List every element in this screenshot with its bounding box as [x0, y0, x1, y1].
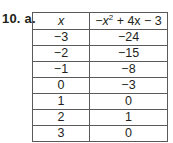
cell-x: −3: [33, 30, 90, 46]
header-rest: + 4x − 3: [113, 14, 162, 28]
table-header-row: x −x2 + 4x − 3: [33, 13, 168, 30]
table-row: −1 −8: [33, 62, 168, 78]
table-row: 1 0: [33, 94, 168, 110]
problem-number-label: 10. a.: [2, 11, 36, 27]
cell-x: 2: [33, 110, 90, 126]
cell-x: −1: [33, 62, 90, 78]
table-row: −3 −24: [33, 30, 168, 46]
cell-y: −8: [90, 62, 168, 78]
cell-x: −2: [33, 46, 90, 62]
cell-y: 1: [90, 110, 168, 126]
cell-x: 1: [33, 94, 90, 110]
cell-x: 0: [33, 78, 90, 94]
header-function: −x2 + 4x − 3: [90, 13, 168, 30]
cell-y: −3: [90, 78, 168, 94]
function-value-table: x −x2 + 4x − 3 −3 −24 −2 −15 −1 −8 0 −3 …: [32, 12, 168, 142]
cell-y: −24: [90, 30, 168, 46]
cell-y: −15: [90, 46, 168, 62]
table-row: −2 −15: [33, 46, 168, 62]
table-row: 0 −3: [33, 78, 168, 94]
cell-x: 3: [33, 126, 90, 142]
table-row: 3 0: [33, 126, 168, 142]
cell-y: 0: [90, 94, 168, 110]
cell-y: 0: [90, 126, 168, 142]
table-row: 2 1: [33, 110, 168, 126]
header-x: x: [33, 13, 90, 30]
